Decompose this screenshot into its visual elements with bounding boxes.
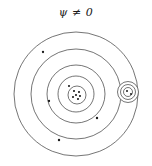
satellite-particle	[126, 90, 128, 92]
core-particle	[79, 95, 81, 97]
orbiting-particles	[42, 51, 98, 141]
orbiting-particle	[58, 139, 60, 141]
figure-container: ψ ≠ 0	[0, 0, 152, 166]
core-particle	[78, 91, 80, 93]
satellite-subsystem	[118, 82, 139, 103]
orbiting-particle	[42, 51, 44, 53]
core-particle	[72, 96, 74, 98]
core-particle	[77, 98, 79, 100]
core-particle	[75, 94, 77, 96]
core-cluster	[72, 90, 81, 100]
satellite-particle	[130, 93, 132, 95]
diagram-canvas	[0, 0, 152, 166]
orbiting-particle	[68, 85, 70, 87]
core-particle	[73, 90, 75, 92]
orbiting-particle	[48, 100, 50, 102]
orbiting-particle	[96, 117, 98, 119]
